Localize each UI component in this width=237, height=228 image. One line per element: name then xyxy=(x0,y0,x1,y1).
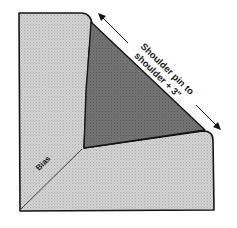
fabric-fold-diagram: Shoulder pin to shoulder + 3" Bias xyxy=(0,0,237,228)
